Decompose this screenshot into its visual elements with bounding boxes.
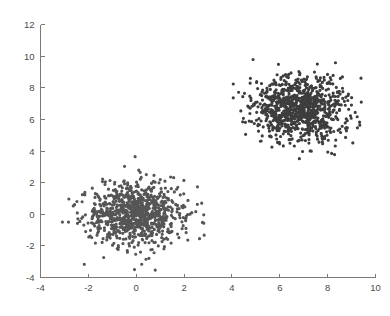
x-tick-label: -2 (84, 282, 92, 293)
y-tick-label: 12 (24, 19, 35, 30)
y-tick-label: 6 (29, 114, 34, 125)
y-tick-label: 4 (29, 146, 34, 157)
x-tick-label: 4 (229, 282, 234, 293)
y-tick-label: 10 (24, 51, 35, 62)
x-tick-label: 8 (325, 282, 330, 293)
scatter-plot-canvas: -4-20246810 -4-2024681012 (0, 0, 390, 316)
x-tick-label: 2 (181, 282, 186, 293)
scatter-plot-figure: -4-20246810 -4-2024681012 (0, 0, 390, 316)
y-tick-label: 0 (29, 209, 34, 220)
y-tick-label: 2 (29, 177, 34, 188)
x-tick-label: 6 (277, 282, 282, 293)
y-tick-label: -2 (26, 240, 34, 251)
x-tick-label: 10 (370, 282, 381, 293)
y-tick-label: -4 (26, 272, 34, 283)
x-tick-label: 0 (134, 282, 139, 293)
plot-background (0, 0, 390, 316)
x-tick-label: -4 (36, 282, 44, 293)
y-tick-label: 8 (29, 82, 34, 93)
